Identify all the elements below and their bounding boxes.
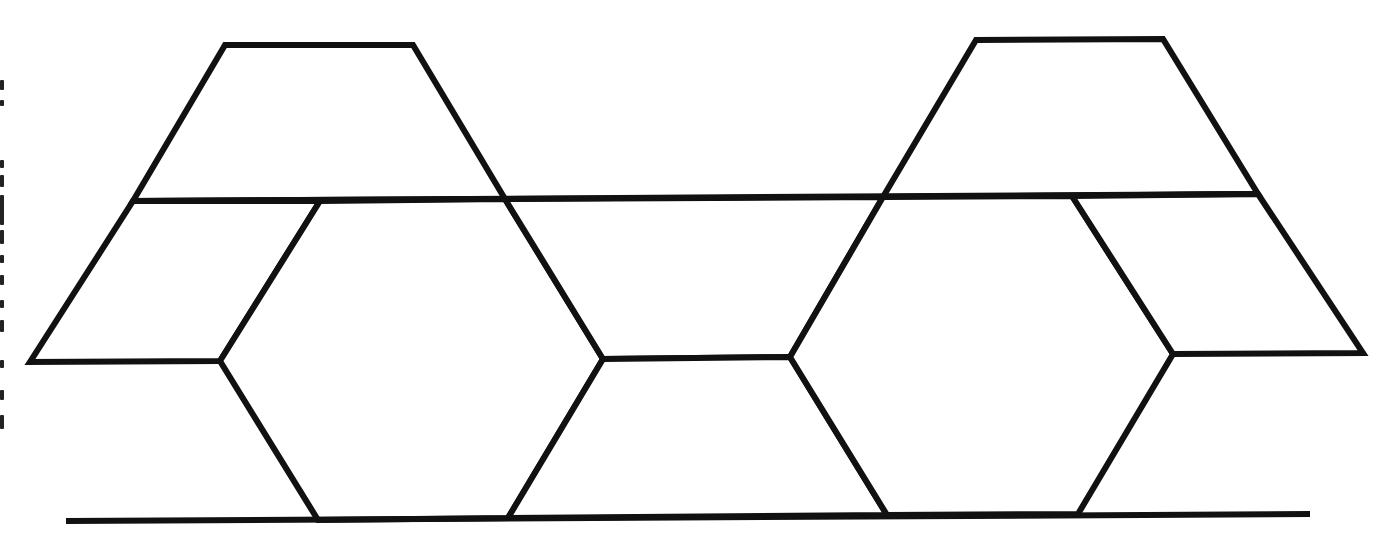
trapezoid-top-left xyxy=(133,45,505,201)
diagram-canvas xyxy=(0,0,1391,545)
base-line xyxy=(66,514,1310,521)
trapezoid-top-right xyxy=(883,39,1258,197)
tessellation-diagram xyxy=(0,0,1391,545)
shapes-layer xyxy=(30,39,1363,520)
